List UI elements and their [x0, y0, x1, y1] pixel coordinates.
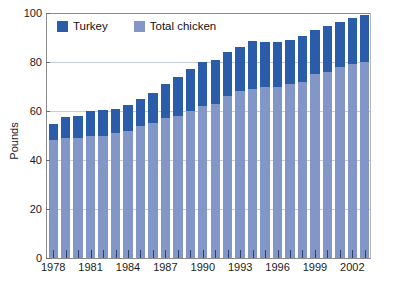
bar-segment-turkey-1983: [111, 109, 120, 134]
x-tick-mark-1984: [128, 250, 129, 258]
bar-1978: [49, 124, 58, 258]
bar-segment-total-chicken-1981: [86, 136, 95, 259]
bar-1988: [173, 77, 182, 258]
x-tick-mark-2001: [340, 250, 341, 258]
y-tick-mark-40: [46, 160, 50, 161]
bar-1993: [235, 47, 244, 258]
bar-segment-turkey-1989: [186, 69, 195, 111]
legend-swatch-total-chicken-icon: [134, 21, 145, 32]
bar-segment-total-chicken-1980: [73, 138, 82, 258]
bar-segment-turkey-2000: [323, 26, 332, 71]
bar-segment-turkey-1978: [49, 124, 58, 140]
bar-segment-total-chicken-1986: [148, 123, 157, 258]
bar-1991: [211, 60, 220, 258]
bar-segment-total-chicken-1998: [298, 82, 307, 258]
bar-segment-total-chicken-1984: [123, 131, 132, 258]
bar-1984: [123, 105, 132, 258]
bar-segment-turkey-1985: [136, 99, 145, 126]
y-tick-label-20: 20: [8, 203, 42, 215]
legend-label-turkey: Turkey: [73, 21, 108, 33]
bar-segment-turkey-1998: [298, 36, 307, 81]
x-tick-mark-1996: [278, 250, 279, 258]
bar-1996: [273, 42, 282, 258]
bar-1980: [73, 116, 82, 258]
bar-segment-total-chicken-1999: [310, 74, 319, 258]
bar-segment-total-chicken-1992: [223, 96, 232, 258]
bar-1989: [186, 69, 195, 258]
x-tick-mark-2003: [365, 250, 366, 258]
y-axis-title: Pounds: [8, 106, 20, 176]
x-tick-mark-1995: [265, 250, 266, 258]
x-tick-mark-1981: [91, 250, 92, 258]
bar-segment-total-chicken-2001: [335, 67, 344, 258]
bar-segment-turkey-1980: [73, 116, 82, 138]
x-tick-mark-2002: [352, 250, 353, 258]
bar-1999: [310, 30, 319, 258]
poultry-consumption-chart: 100 80 60 40 20 0 Pounds 197819811984198…: [0, 0, 400, 286]
x-tick-mark-1979: [66, 250, 67, 258]
x-tick-mark-1993: [240, 250, 241, 258]
bar-1983: [111, 109, 120, 258]
bar-1994: [248, 41, 257, 258]
bar-1987: [161, 84, 170, 258]
bar-segment-turkey-1986: [148, 93, 157, 124]
bar-1998: [298, 36, 307, 258]
x-tick-mark-1990: [203, 250, 204, 258]
x-tick-mark-1997: [290, 250, 291, 258]
bar-segment-total-chicken-1985: [136, 126, 145, 258]
bar-1990: [198, 62, 207, 258]
x-tick-label-1999: 1999: [303, 261, 327, 273]
bar-1979: [61, 117, 70, 258]
x-tick-mark-1978: [53, 250, 54, 258]
bar-1992: [223, 52, 232, 258]
x-tick-mark-1998: [302, 250, 303, 258]
bar-segment-total-chicken-1991: [211, 104, 220, 258]
bar-1981: [86, 111, 95, 258]
x-tick-mark-1985: [140, 250, 141, 258]
bar-segment-turkey-1992: [223, 52, 232, 96]
y-tick-mark-60: [46, 111, 50, 112]
bar-segment-turkey-1994: [248, 41, 257, 89]
bar-segment-total-chicken-1997: [285, 84, 294, 258]
bar-segment-turkey-1991: [211, 60, 220, 104]
bar-segment-turkey-1984: [123, 105, 132, 131]
x-tick-label-1984: 1984: [116, 261, 140, 273]
bar-1997: [285, 40, 294, 258]
bar-segment-total-chicken-2003: [360, 62, 369, 258]
bar-segment-total-chicken-1978: [49, 140, 58, 258]
bar-segment-total-chicken-1996: [273, 87, 282, 259]
x-tick-mark-1989: [190, 250, 191, 258]
legend-label-total-chicken: Total chicken: [150, 21, 216, 33]
x-tick-label-1996: 1996: [265, 261, 289, 273]
x-tick-mark-1980: [78, 250, 79, 258]
bar-segment-turkey-1981: [86, 111, 95, 136]
bar-segment-total-chicken-1979: [61, 138, 70, 258]
x-tick-mark-1988: [178, 250, 179, 258]
bar-2002: [348, 18, 357, 258]
y-tick-mark-80: [46, 62, 50, 63]
bar-segment-turkey-1999: [310, 30, 319, 74]
x-tick-label-1978: 1978: [41, 261, 65, 273]
legend-item-turkey: Turkey: [57, 21, 108, 33]
x-tick-label-1987: 1987: [153, 261, 177, 273]
bar-1995: [260, 42, 269, 258]
bar-1985: [136, 99, 145, 258]
y-tick-label-100: 100: [8, 7, 42, 19]
bar-segment-turkey-1988: [173, 77, 182, 116]
x-tick-mark-1986: [153, 250, 154, 258]
bar-segment-total-chicken-1994: [248, 89, 257, 258]
bar-segment-turkey-1982: [98, 110, 107, 136]
x-tick-label-1993: 1993: [228, 261, 252, 273]
bar-2003: [360, 15, 369, 258]
bars-layer: [47, 13, 371, 258]
bar-segment-total-chicken-1995: [260, 87, 269, 259]
x-axis: 197819811984198719901993199619992002: [47, 250, 371, 286]
x-tick-label-2002: 2002: [340, 261, 364, 273]
bar-segment-total-chicken-1993: [235, 91, 244, 258]
chart-legend: Turkey Total chicken: [57, 21, 216, 33]
bar-segment-turkey-1995: [260, 42, 269, 86]
x-tick-mark-1999: [315, 250, 316, 258]
x-tick-label-1981: 1981: [78, 261, 102, 273]
x-tick-mark-1994: [253, 250, 254, 258]
y-tick-mark-100: [46, 13, 50, 14]
